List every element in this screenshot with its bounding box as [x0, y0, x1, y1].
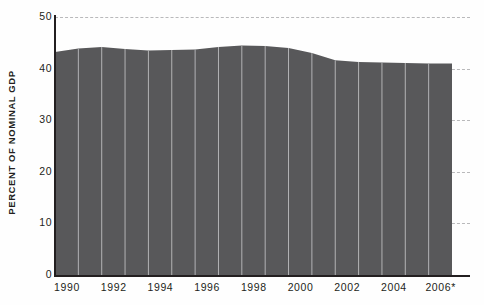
x-tick-label: 2004: [381, 281, 407, 293]
area-chart: PERCENT OF NOMINAL GDP 01020304050 19901…: [0, 0, 484, 305]
y-tick-label: 20: [22, 165, 52, 177]
x-tick-label: 2002: [334, 281, 360, 293]
area-series-svg: [55, 17, 470, 275]
plot-area: [55, 17, 470, 275]
x-tick-label: 1990: [54, 281, 80, 293]
x-tick-label: 1996: [194, 281, 220, 293]
x-tick-label: 2000: [288, 281, 314, 293]
y-tick-label: 10: [22, 216, 52, 228]
x-axis-line: [54, 275, 470, 277]
x-tick-label: 1998: [241, 281, 267, 293]
x-tick-label: 2006*: [425, 281, 455, 293]
area-fill: [55, 45, 452, 275]
y-tick-label: 50: [22, 10, 52, 22]
y-tick-label: 30: [22, 113, 52, 125]
x-tick-label: 1994: [148, 281, 174, 293]
y-axis-title-text: PERCENT OF NOMINAL GDP: [6, 70, 17, 214]
y-tick-label: 40: [22, 62, 52, 74]
y-axis-tick-labels: 01020304050: [16, 0, 52, 305]
x-tick-label: 1992: [101, 281, 127, 293]
y-axis-line: [54, 15, 56, 277]
y-tick-label: 0: [22, 268, 52, 280]
